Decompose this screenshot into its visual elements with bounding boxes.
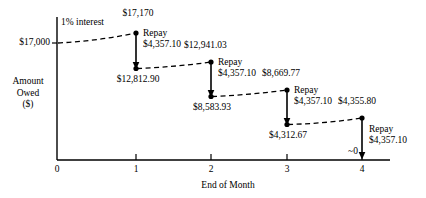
y-axis-title-line3: ($): [2, 99, 54, 111]
value-label-month-2-bottom: $8,583.93: [176, 102, 248, 113]
repay-amount-3: $4,357.10: [294, 96, 332, 107]
repayment-arrow-month-4: [359, 115, 366, 159]
y-tick-label-17000: $17,000: [0, 37, 50, 48]
value-label-month-3-bottom: $4,312.67: [252, 130, 324, 141]
value-label-month-2-top: $12,941.03: [184, 40, 227, 51]
repay-amount-2: $4,357.10: [218, 68, 256, 79]
x-tick-label-1: 1: [126, 164, 146, 174]
repay-annotation-month-3: Repay $4,357.10: [294, 85, 332, 107]
value-label-month-3-top: $8,669.77: [262, 68, 300, 79]
x-axis-title: End of Month: [168, 180, 288, 192]
value-label-month-4-top: $4,355.80: [338, 96, 376, 107]
interest-rate-annotation: 1% interest: [61, 17, 104, 28]
interest-curve-0-1: [58, 33, 136, 43]
interest-curve-2-3: [212, 90, 287, 97]
repay-label-4: Repay: [369, 124, 407, 135]
repay-annotation-month-1: Repay $4,357.10: [143, 28, 181, 50]
value-label-month-1-top: $17,170: [110, 8, 166, 19]
repay-label-3: Repay: [294, 85, 332, 96]
interest-curve-3-4: [288, 118, 362, 125]
repay-annotation-month-2: Repay $4,357.10: [218, 57, 256, 79]
repay-label-2: Repay: [218, 57, 256, 68]
x-tick-label-3: 3: [277, 164, 297, 174]
interest-curve-1-2: [137, 62, 211, 69]
amortization-chart: Amount Owed ($) End of Month $17,000 0 1…: [0, 0, 426, 198]
repay-amount-1: $4,357.10: [143, 39, 181, 50]
x-tick-label-0: 0: [47, 164, 67, 174]
repayment-arrow-month-3: [284, 87, 291, 127]
y-axis-title-line2: Owed: [2, 88, 54, 100]
value-label-month-4-bottom: ~0: [318, 146, 358, 157]
y-axis-title: Amount Owed ($): [2, 76, 54, 111]
x-tick-label-2: 2: [201, 164, 221, 174]
repayment-arrow-month-1: [133, 30, 140, 71]
repay-amount-4: $4,357.10: [369, 135, 407, 146]
repay-annotation-month-4: Repay $4,357.10: [369, 124, 407, 146]
repay-label-1: Repay: [143, 28, 181, 39]
y-axis-title-line1: Amount: [2, 76, 54, 88]
value-label-month-1-bottom: $12,812.90: [102, 74, 174, 85]
x-tick-label-4: 4: [352, 164, 372, 174]
repayment-arrow-month-2: [208, 59, 215, 99]
